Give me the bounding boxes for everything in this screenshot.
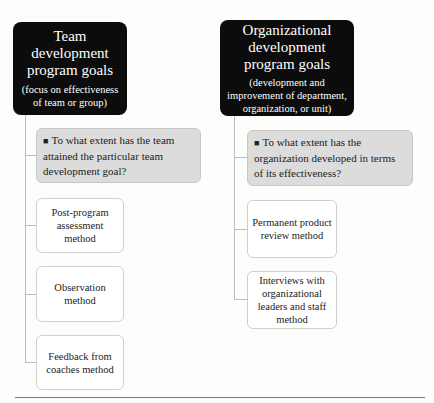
method-label: Permanent product review method [252,216,332,242]
bullet-icon: ■ [43,136,48,146]
method-label: Feedback from coaches method [41,350,119,376]
team-goals-header: Team development program goals (focus on… [13,22,127,115]
team-goals-subtitle: (focus on effectiveness of team or group… [17,83,123,109]
right-connector-branch [234,157,247,158]
method-label: Observation method [40,281,119,307]
organizational-goals-header: Organizational development program goals… [220,20,354,116]
left-connector-branch [25,362,36,363]
method-observation: Observation method [36,266,124,322]
bullet-icon: ■ [254,138,259,148]
organization-question-box: ■To what extent has the organization dev… [247,130,413,186]
team-question-box: ■To what extent has the team attained th… [36,128,201,183]
bottom-rule [15,397,425,398]
right-connector-branch [234,299,247,300]
method-feedback-from-coaches: Feedback from coaches method [36,335,124,390]
team-question-text: To what extent has the team attained the… [43,134,174,177]
method-permanent-product-review: Permanent product review method [247,200,337,258]
organizational-goals-title: Organizational development program goals [224,22,350,73]
method-label: Post-program assessment method [41,206,119,245]
organization-question-text: To what extent has the organization deve… [254,136,395,179]
organizational-goals-subtitle: (development and improvement of departme… [224,76,350,115]
method-label: Interviews with organizational leaders a… [252,274,332,326]
method-interviews: Interviews with organizational leaders a… [247,271,337,329]
team-goals-title: Team development program goals [17,28,123,79]
method-post-program-assessment: Post-program assessment method [36,198,124,253]
left-connector-line [25,114,26,362]
left-connector-branch [25,155,36,156]
right-connector-line [234,115,235,299]
left-connector-branch [25,294,36,295]
right-connector-branch [234,229,247,230]
left-connector-branch [25,225,36,226]
